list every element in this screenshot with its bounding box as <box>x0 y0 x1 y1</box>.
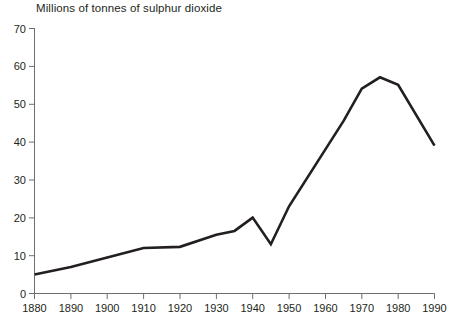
x-tick-label-1900: 1900 <box>95 302 119 314</box>
x-tick-label-1930: 1930 <box>204 302 228 314</box>
x-tick-label-1890: 1890 <box>59 302 83 314</box>
y-axis: 70 60 50 40 30 20 10 0 <box>14 23 35 300</box>
x-tick-label-1960: 1960 <box>313 302 337 314</box>
x-tick-label-1940: 1940 <box>240 302 264 314</box>
y-tick-label-0: 0 <box>20 288 26 300</box>
x-tick-label-1990: 1990 <box>422 302 446 314</box>
x-tick-label-1910: 1910 <box>131 302 155 314</box>
x-tick-label-1920: 1920 <box>168 302 192 314</box>
x-tick-label-1880: 1880 <box>22 302 46 314</box>
x-tick-label-1950: 1950 <box>277 302 301 314</box>
y-tick-label-40: 40 <box>14 136 26 148</box>
chart-plot-area: 70 60 50 40 30 20 10 0 1880 1890 1900 <box>0 0 455 325</box>
x-axis: 1880 1890 1900 1910 1920 1930 1940 1950 … <box>22 294 446 315</box>
x-tick-label-1970: 1970 <box>350 302 374 314</box>
sulphur-dioxide-line-chart: Millions of tonnes of sulphur dioxide 70… <box>0 0 455 325</box>
y-tick-label-60: 60 <box>14 60 26 72</box>
y-tick-label-20: 20 <box>14 212 26 224</box>
y-tick-label-10: 10 <box>14 250 26 262</box>
data-line-sulphur-dioxide <box>35 77 435 274</box>
y-tick-label-50: 50 <box>14 98 26 110</box>
x-tick-label-1980: 1980 <box>386 302 410 314</box>
y-tick-label-30: 30 <box>14 174 26 186</box>
y-tick-label-70: 70 <box>14 23 26 35</box>
